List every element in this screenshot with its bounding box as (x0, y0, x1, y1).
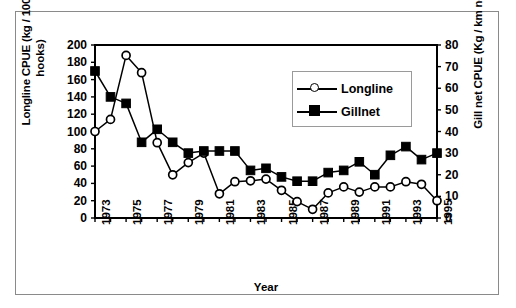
data-point-gillnet (308, 177, 317, 186)
data-point-gillnet (184, 149, 193, 158)
data-point-gillnet (355, 158, 364, 167)
data-point-gillnet (200, 147, 209, 156)
data-point-gillnet (324, 168, 333, 177)
data-point-longline (184, 159, 192, 167)
data-point-longline (355, 188, 363, 196)
data-point-longline (402, 178, 410, 186)
data-point-longline (107, 115, 115, 123)
data-point-longline (231, 178, 239, 186)
data-point-longline (153, 139, 161, 147)
data-point-longline (215, 190, 223, 198)
data-point-longline (324, 189, 332, 197)
data-point-longline (91, 128, 99, 136)
plot-area (0, 0, 516, 308)
data-point-longline (122, 51, 130, 59)
data-point-gillnet (137, 138, 146, 147)
legend-label-gillnet: Gillnet (341, 105, 380, 119)
figure-canvas: Longline CPUE (kg / 1000 hooks) Gill net… (0, 0, 516, 308)
data-point-gillnet (277, 173, 286, 182)
data-point-gillnet (262, 164, 271, 173)
data-point-longline (340, 183, 348, 191)
chart-legend: Longline Gillnet (292, 71, 412, 127)
data-point-longline (169, 171, 177, 179)
data-point-gillnet (417, 155, 426, 164)
data-point-gillnet (215, 147, 224, 156)
data-point-longline (386, 183, 394, 191)
data-point-gillnet (371, 170, 380, 179)
data-point-longline (278, 186, 286, 194)
data-point-gillnet (386, 151, 395, 160)
data-point-gillnet (122, 99, 131, 108)
data-point-gillnet (153, 125, 162, 134)
data-point-longline (309, 205, 317, 213)
legend-item-gillnet: Gillnet (293, 102, 411, 122)
data-point-longline (371, 183, 379, 191)
data-point-gillnet (339, 166, 348, 175)
data-point-gillnet (168, 138, 177, 147)
data-point-gillnet (91, 67, 100, 76)
data-point-longline (433, 197, 441, 205)
data-point-gillnet (106, 93, 115, 102)
data-point-gillnet (246, 166, 255, 175)
data-point-longline (247, 177, 255, 185)
data-point-gillnet (433, 149, 442, 158)
open-circle-marker-icon (310, 83, 319, 92)
data-point-longline (418, 180, 426, 188)
legend-label-longline: Longline (341, 82, 393, 96)
data-point-gillnet (402, 142, 411, 151)
legend-item-longline: Longline (293, 79, 411, 99)
data-point-gillnet (231, 147, 240, 156)
data-point-gillnet (293, 177, 302, 186)
data-point-longline (293, 198, 301, 206)
data-point-longline (262, 175, 270, 183)
data-point-longline (138, 69, 146, 77)
filled-square-marker-icon (309, 105, 320, 116)
